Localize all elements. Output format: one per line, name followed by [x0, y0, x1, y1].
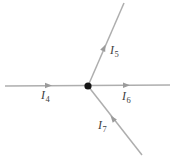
label-i5-subscript: 5 [115, 49, 119, 59]
arrowhead-i6-icon [123, 83, 130, 88]
diagram-canvas [0, 0, 175, 163]
arrowhead-i5-icon [100, 45, 105, 53]
label-i5: I5 [110, 44, 119, 58]
label-i7-symbol: I [98, 118, 102, 132]
label-i7-subscript: 7 [103, 124, 107, 134]
label-i6-subscript: 6 [127, 95, 131, 105]
label-i6: I6 [122, 90, 131, 104]
label-i4-subscript: 4 [46, 94, 50, 104]
label-i4: I4 [41, 89, 50, 103]
junction-node [84, 82, 91, 89]
label-i4-symbol: I [41, 88, 45, 102]
label-i6-symbol: I [122, 89, 126, 103]
arrowhead-i4-icon [45, 83, 52, 88]
label-i5-symbol: I [110, 43, 114, 57]
current-junction-diagram: I4 I5 I6 I7 [0, 0, 175, 163]
label-i7: I7 [98, 119, 107, 133]
